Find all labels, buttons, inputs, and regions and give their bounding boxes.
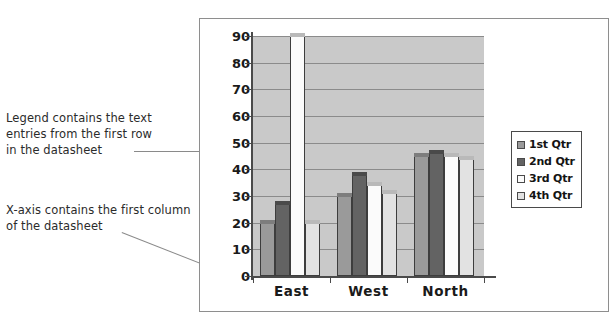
bar-east-4th-qtr [305,223,320,276]
bar-west-3rd-qtr [367,185,382,276]
bar-top-face [337,193,352,197]
x-tick-mark [407,278,408,283]
x-tick-label-east: East [274,283,309,299]
bar-west-4th-qtr [382,193,397,276]
legend-label: 3rd Qtr [529,172,572,185]
bar-north-1st-qtr [414,156,429,276]
legend-label: 1st Qtr [529,138,571,151]
bar-top-face [352,172,367,176]
legend-swatch-icon [517,141,525,149]
bar-west-1st-qtr [337,196,352,276]
bar-top-face [444,153,459,157]
legend-item-4th-qtr[interactable]: 4th Qtr [517,187,577,204]
legend-swatch-icon [517,192,525,200]
legend-item-3rd-qtr[interactable]: 3rd Qtr [517,170,577,187]
bar-top-face [429,150,444,154]
chart-legend[interactable]: 1st Qtr2nd Qtr3rd Qtr4th Qtr [511,131,582,208]
x-tick-label-north: North [422,283,468,299]
legend-label: 4th Qtr [529,189,572,202]
bar-top-face [275,201,290,205]
bar-north-2nd-qtr [429,153,444,276]
legend-label: 2nd Qtr [529,155,575,168]
bar-top-face [290,33,305,37]
legend-item-2nd-qtr[interactable]: 2nd Qtr [517,153,577,170]
legend-item-1st-qtr[interactable]: 1st Qtr [517,136,577,153]
x-tick-mark [484,278,485,283]
x-tick-mark [330,278,331,283]
bar-north-4th-qtr [459,159,474,276]
bar-north-3rd-qtr [444,156,459,276]
bar-top-face [305,220,320,224]
legend-swatch-icon [517,158,525,166]
bar-east-3rd-qtr [290,36,305,276]
bar-top-face [260,220,275,224]
bar-top-face [367,182,382,186]
bar-west-2nd-qtr [352,175,367,276]
legend-swatch-icon [517,175,525,183]
bar-top-face [382,190,397,194]
bar-top-face [459,156,474,160]
bar-east-1st-qtr [260,223,275,276]
x-tick-mark [253,278,254,283]
bar-top-face [414,153,429,157]
x-tick-label-west: West [348,283,388,299]
bar-east-2nd-qtr [275,204,290,276]
